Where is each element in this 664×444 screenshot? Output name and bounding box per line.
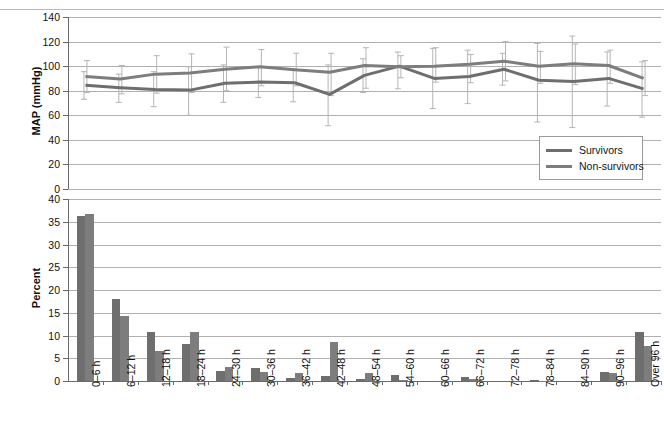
percent-gridline bbox=[68, 290, 661, 291]
percent-x-tickmark bbox=[521, 381, 522, 385]
percent-x-category-label: 72–78 h bbox=[509, 349, 521, 387]
percent-x-tickmark bbox=[661, 381, 662, 385]
bar-survivors[interactable] bbox=[391, 375, 400, 381]
bar-survivors[interactable] bbox=[635, 332, 644, 381]
percent-x-tickmark bbox=[312, 381, 313, 385]
percent-y-tick-label: 35 bbox=[32, 216, 60, 228]
percent-x-category-label: 48–54 h bbox=[370, 349, 382, 387]
percent-x-tickmark bbox=[382, 381, 383, 385]
percent-x-tickmark bbox=[208, 381, 209, 385]
percent-y-tick-label: 40 bbox=[32, 193, 60, 205]
percent-x-category-label: 12–18 h bbox=[160, 349, 172, 387]
percent-x-category-label: 24–30 h bbox=[230, 349, 242, 387]
percent-x-tickmark bbox=[347, 381, 348, 385]
percent-x-category-label: 60–66 h bbox=[439, 349, 451, 387]
percent-x-tickmark bbox=[452, 381, 453, 385]
percent-x-category-label: 78–84 h bbox=[544, 349, 556, 387]
bar-survivors[interactable] bbox=[286, 378, 295, 381]
percent-gridline bbox=[68, 336, 661, 337]
percent-gridline bbox=[68, 267, 661, 268]
percent-gridline bbox=[68, 245, 661, 246]
bar-survivors[interactable] bbox=[251, 368, 260, 381]
bar-survivors[interactable] bbox=[356, 379, 365, 381]
percent-x-tickmark bbox=[242, 381, 243, 385]
bar-survivors[interactable] bbox=[461, 377, 470, 381]
percent-x-category-label: 90–96 h bbox=[614, 349, 626, 387]
percent-y-tick-label: 0 bbox=[32, 375, 60, 387]
bar-survivors[interactable] bbox=[600, 372, 609, 381]
percent-y-axis bbox=[68, 199, 69, 381]
bar-survivors[interactable] bbox=[77, 216, 86, 381]
percent-x-category-label: 36–42 h bbox=[300, 349, 312, 387]
bar-survivors[interactable] bbox=[530, 380, 539, 381]
bar-survivors[interactable] bbox=[147, 332, 156, 381]
percent-x-category-label: 84–90 h bbox=[579, 349, 591, 387]
percent-x-category-label: 30–36 h bbox=[265, 349, 277, 387]
percent-x-axis bbox=[68, 381, 661, 382]
percent-x-category-label: Over 96 h bbox=[649, 341, 661, 387]
percent-y-axis-title: Percent bbox=[30, 238, 42, 338]
percent-gridline bbox=[68, 313, 661, 314]
percent-gridline bbox=[68, 199, 661, 200]
percent-x-tickmark bbox=[591, 381, 592, 385]
percent-x-category-label: 0–6 h bbox=[90, 361, 102, 387]
bar-survivors[interactable] bbox=[321, 376, 330, 381]
figure-root: 020406080100120140MAP (mmHg)SurvivorsNon… bbox=[0, 0, 664, 444]
percent-x-tickmark bbox=[417, 381, 418, 385]
percent-x-tickmark bbox=[173, 381, 174, 385]
percent-bar-chart: 0510152025303540Percent0–6 h6–12 h12–18 … bbox=[0, 0, 664, 444]
bar-survivors[interactable] bbox=[112, 299, 121, 381]
percent-x-category-label: 54–60 h bbox=[404, 349, 416, 387]
percent-x-tickmark bbox=[103, 381, 104, 385]
bar-survivors[interactable] bbox=[182, 344, 191, 381]
percent-y-tick-label: 5 bbox=[32, 352, 60, 364]
percent-x-category-label: 6–12 h bbox=[125, 355, 137, 387]
bar-non-survivors[interactable] bbox=[85, 214, 94, 381]
percent-x-tickmark bbox=[556, 381, 557, 385]
percent-x-category-label: 42–48 h bbox=[335, 349, 347, 387]
percent-x-tickmark bbox=[138, 381, 139, 385]
percent-x-tickmark bbox=[487, 381, 488, 385]
percent-gridline bbox=[68, 222, 661, 223]
percent-x-tickmark bbox=[626, 381, 627, 385]
percent-x-category-label: 18–24 h bbox=[195, 349, 207, 387]
percent-x-tickmark bbox=[277, 381, 278, 385]
percent-x-category-label: 66–72 h bbox=[474, 349, 486, 387]
bar-survivors[interactable] bbox=[216, 371, 225, 381]
